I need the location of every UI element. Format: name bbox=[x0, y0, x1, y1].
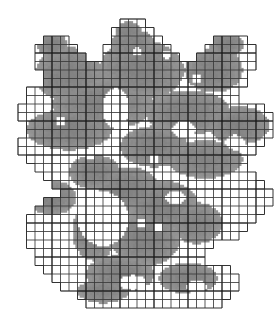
fractal-grid-canvas bbox=[0, 0, 277, 329]
box-counting-figure bbox=[0, 0, 277, 329]
